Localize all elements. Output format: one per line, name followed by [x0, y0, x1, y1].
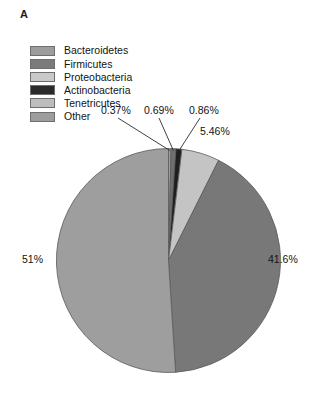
slice-label-other: 51%	[22, 253, 43, 265]
slice-label-firmicutes: 41.6%	[268, 253, 298, 265]
pie-chart-svg	[0, 0, 335, 397]
slice-label-actinobacteria: 0.86%	[189, 104, 219, 116]
leader-line-group	[118, 118, 200, 151]
figure-panel-a: A Bacteroidetes Firmicutes Proteobacteri…	[0, 0, 335, 397]
slice-label-tenetricutes: 5.46%	[200, 125, 230, 137]
slice-label-bacteroidetes: 0.37%	[101, 104, 131, 116]
leader-line-proteobacteria	[159, 118, 173, 151]
leader-line-actinobacteria	[179, 118, 200, 151]
leader-line-bacteroidetes	[118, 118, 170, 151]
pie-chart	[0, 0, 335, 397]
slice-label-proteobacteria: 0.69%	[144, 104, 174, 116]
pie-slice-other	[56, 148, 175, 372]
pie-slice-group	[56, 148, 280, 372]
